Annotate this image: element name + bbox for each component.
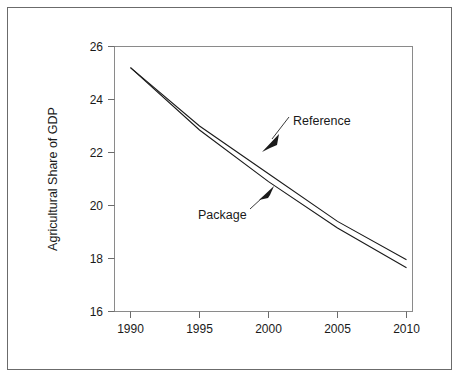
- x-tick-label-2005: 2005: [324, 322, 351, 336]
- package-label: Package: [198, 208, 247, 222]
- x-axis-ticks: [131, 312, 407, 319]
- x-tick-label-2010: 2010: [393, 322, 420, 336]
- chart-screenshot: 26 24 22 20 18 16 1990 1995 2000 2005 20…: [0, 0, 459, 378]
- y-tick-label-18: 18: [90, 252, 104, 266]
- y-tick-label-16: 16: [90, 305, 104, 319]
- x-tick-label-2000: 2000: [255, 322, 282, 336]
- y-axis-title: Agricultural Share of GDP: [46, 107, 60, 251]
- x-tick-label-1990: 1990: [117, 322, 144, 336]
- y-tick-label-26: 26: [90, 40, 104, 54]
- y-tick-label-20: 20: [90, 199, 104, 213]
- plot-area-border: [115, 47, 413, 312]
- y-tick-label-24: 24: [90, 93, 104, 107]
- x-tick-label-1995: 1995: [186, 322, 213, 336]
- agricultural-share-line-chart: 26 24 22 20 18 16 1990 1995 2000 2005 20…: [0, 0, 459, 378]
- y-axis-ticks: [108, 47, 115, 312]
- reference-label: Reference: [293, 114, 351, 128]
- y-tick-label-22: 22: [90, 146, 104, 160]
